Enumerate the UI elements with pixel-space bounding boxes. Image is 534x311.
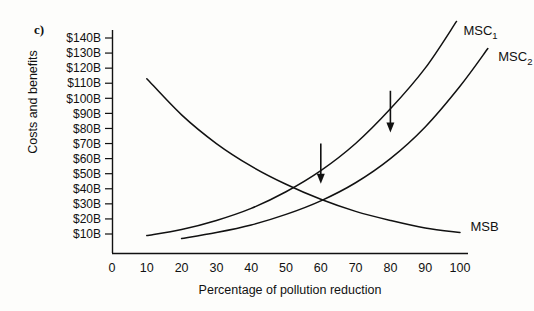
y-tick-label: $60B	[73, 152, 101, 166]
y-tick-label: $40B	[73, 182, 101, 196]
shift-arrow-left-head	[317, 174, 325, 184]
y-tick-label: $80B	[73, 122, 101, 136]
y-tick-label: $20B	[73, 212, 101, 226]
x-tick-label: 20	[175, 261, 189, 275]
shift-annotations	[317, 91, 395, 184]
x-tick-label: 10	[140, 261, 154, 275]
chart-svg: $10B$20B$30B$40B$50B$60B$70B$80B$90B$100…	[0, 0, 534, 311]
x-tick-label: 70	[349, 261, 363, 275]
x-tick-label: 30	[209, 261, 223, 275]
x-tick-label: 40	[244, 261, 258, 275]
curve-msc_1	[147, 21, 457, 235]
x-tick-label: 50	[279, 261, 293, 275]
y-tick-label: $120B	[66, 61, 101, 75]
y-tick-label: $90B	[73, 107, 101, 121]
x-tick-label: 100	[450, 261, 471, 275]
y-axis-ticks: $10B$20B$30B$40B$50B$60B$70B$80B$90B$100…	[66, 31, 112, 241]
curve-msc_2	[182, 49, 488, 239]
y-tick-label: $10B	[73, 227, 101, 241]
data-curves	[147, 21, 488, 238]
y-tick-label: $50B	[73, 167, 101, 181]
x-tick-label: 0	[109, 261, 116, 275]
y-tick-label: $30B	[73, 197, 101, 211]
curve-label-msc_1: MSC1	[463, 23, 497, 41]
shift-arrow-right-head	[386, 122, 394, 132]
curve-labels: MSC1MSC2MSB	[463, 23, 532, 234]
x-tick-label: 60	[314, 261, 328, 275]
curve-label-msb: MSB	[470, 219, 498, 234]
chart-figure: c) Costs and benefits Percentage of poll…	[0, 0, 534, 311]
x-axis-ticks: 0102030405060708090100	[109, 261, 471, 275]
x-tick-label: 90	[418, 261, 432, 275]
y-tick-label: $100B	[66, 92, 101, 106]
y-tick-label: $130B	[66, 46, 101, 60]
curve-msb	[147, 79, 460, 233]
y-tick-label: $140B	[66, 31, 101, 45]
x-tick-label: 80	[383, 261, 397, 275]
curve-label-msc_2: MSC2	[498, 49, 532, 67]
y-tick-label: $70B	[73, 137, 101, 151]
y-tick-label: $110B	[67, 76, 101, 90]
